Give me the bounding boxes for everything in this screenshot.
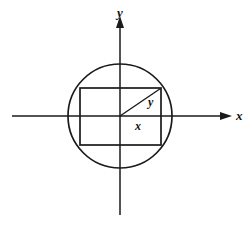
x-axis-label: x	[236, 109, 243, 122]
figure-canvas: y x y x	[0, 0, 252, 225]
radius-horizontal-label: x	[135, 120, 141, 132]
y-axis-label: y	[117, 6, 123, 19]
geometry-diagram	[0, 0, 252, 225]
radius-vertical-label: y	[148, 96, 153, 108]
x-axis-arrowhead	[220, 112, 232, 120]
radius-segment	[120, 89, 161, 117]
